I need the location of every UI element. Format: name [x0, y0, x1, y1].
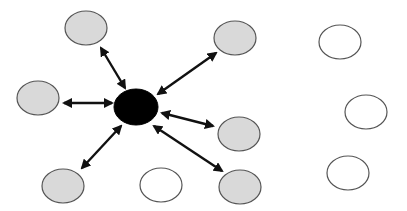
connected-node-n3: [17, 81, 59, 115]
unconnected-node-n8: [319, 25, 361, 59]
unconnected-node-n9: [345, 95, 387, 129]
bidirectional-arrow-hub-n5: [82, 126, 121, 168]
hub-node: [114, 89, 158, 125]
connected-node-n7: [219, 170, 261, 204]
bidirectional-arrow-hub-n7: [154, 126, 222, 171]
bidirectional-arrow-hub-n1: [101, 48, 125, 88]
node-group: [17, 11, 387, 204]
connected-node-n1: [65, 11, 107, 45]
unconnected-node-n10: [327, 156, 369, 190]
connected-node-n5: [42, 169, 84, 203]
unconnected-node-n6: [140, 168, 182, 202]
bidirectional-arrow-hub-n4: [162, 113, 213, 126]
network-diagram: [0, 0, 407, 211]
bidirectional-arrow-hub-n2: [158, 53, 216, 94]
connected-node-n2: [214, 21, 256, 55]
connected-node-n4: [218, 117, 260, 151]
